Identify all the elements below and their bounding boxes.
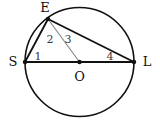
vertex-marker-E [46, 17, 50, 21]
angle-label-2: 2 [47, 33, 54, 46]
vertex-label-O: O [74, 69, 85, 84]
vertex-marker-S [23, 60, 27, 64]
angle-label-1: 1 [35, 50, 42, 63]
vertex-marker-L [132, 60, 136, 64]
angle-label-3: 3 [65, 33, 72, 46]
angle-label-4: 4 [107, 50, 114, 63]
circle-diagram-svg: E S L O 1 2 3 4 [0, 0, 160, 128]
geometry-figure: E S L O 1 2 3 4 [0, 0, 160, 128]
vertex-marker-O [77, 60, 81, 64]
vertex-label-L: L [143, 54, 152, 69]
vertex-label-E: E [40, 0, 50, 15]
vertex-label-S: S [9, 54, 18, 69]
